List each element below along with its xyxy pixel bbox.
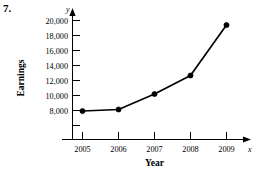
x-axis-ticks — [83, 132, 227, 140]
y-axis-ticks — [73, 21, 81, 126]
data-points — [80, 22, 229, 113]
y-tick-label: 20,000 — [45, 17, 68, 26]
x-tick-label: 2009 — [218, 145, 234, 154]
data-series-line — [83, 25, 227, 111]
x-axis-arrowhead — [243, 136, 251, 142]
x-axis-title: Year — [145, 158, 165, 168]
data-point-2007 — [152, 91, 157, 96]
y-tick-label: 10,000 — [45, 92, 68, 101]
y-tick-label: 18,000 — [45, 32, 68, 41]
data-point-2006 — [116, 107, 121, 112]
data-point-2009 — [224, 22, 229, 27]
x-axis-variable-label: x — [247, 145, 252, 154]
figure-container: 7. y x 20,000 18,000 16 — [0, 0, 260, 171]
y-axis-title: Earnings — [16, 59, 26, 96]
line-chart-svg: y x 20,000 18,000 16,000 14,000 12,000 1 — [0, 0, 260, 171]
y-axis-tick-labels: 20,000 18,000 16,000 14,000 12,000 10,00… — [45, 17, 68, 116]
y-tick-label: 16,000 — [45, 47, 68, 56]
x-tick-label: 2006 — [110, 145, 126, 154]
x-tick-label: 2005 — [74, 145, 90, 154]
y-tick-label: 14,000 — [45, 62, 68, 71]
data-point-2008 — [188, 73, 193, 78]
x-tick-label: 2008 — [182, 145, 198, 154]
y-tick-label: 8,000 — [50, 107, 68, 116]
data-point-2005 — [80, 108, 85, 113]
y-tick-label: 12,000 — [45, 77, 68, 86]
y-axis-variable-label: y — [65, 5, 70, 14]
x-axis-tick-labels: 2005 2006 2007 2008 2009 — [74, 145, 234, 154]
y-axis-arrowhead — [69, 8, 75, 16]
x-tick-label: 2007 — [146, 145, 162, 154]
